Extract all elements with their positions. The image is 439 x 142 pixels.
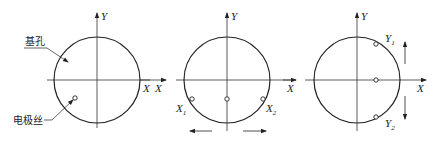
x-axis-label: X	[142, 82, 151, 94]
y-axis-label: Y	[231, 10, 239, 22]
panel-3: Y X Y1 Y2	[283, 10, 426, 132]
point-y2	[374, 115, 378, 119]
diagram-canvas: Y X 基孔 电极丝 X Y X X1 X2 Y X	[0, 0, 439, 142]
point-y1	[374, 42, 378, 46]
panel-2: X Y X X1 X2	[140, 10, 296, 131]
base-hole-label: 基孔	[25, 35, 45, 47]
electrode-wire-leader	[44, 100, 73, 120]
y2-label: Y2	[385, 117, 395, 132]
x-axis-label: X	[416, 82, 425, 94]
point-center	[374, 78, 378, 82]
point-x1	[190, 97, 194, 101]
x1-label: X1	[175, 102, 186, 117]
y-axis-label: Y	[101, 10, 109, 22]
electrode-wire-label: 电极丝	[13, 114, 43, 126]
left-x-axis-label: X	[154, 82, 163, 94]
x-axis-label: X	[286, 82, 295, 94]
panel-1: Y X 基孔 电极丝	[13, 10, 151, 128]
point-x2	[261, 97, 265, 101]
y1-label: Y1	[385, 32, 395, 47]
x2-label: X2	[265, 102, 277, 117]
point-center	[225, 97, 229, 101]
electrode-wire-point	[73, 96, 77, 100]
y-axis-label: Y	[361, 10, 369, 22]
